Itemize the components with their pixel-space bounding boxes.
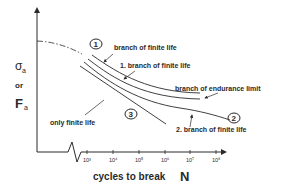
svg-text:2: 2	[232, 114, 237, 123]
tick-label: 10⁵	[135, 157, 143, 163]
svg-text:1: 1	[94, 40, 99, 49]
label-second-branch-finite-life: 2. branch of finite life	[176, 126, 247, 133]
tick-label: 10⁶	[161, 157, 169, 163]
label-branch-finite-life: branch of finite life	[114, 44, 177, 51]
marker-1: 1	[90, 39, 102, 49]
label-branch-endurance-limit: branch of endurance limit	[175, 85, 261, 92]
tick-label: 10⁸	[212, 157, 220, 163]
sigma-subscript: a	[22, 67, 26, 74]
label-only-finite-life: only finite life	[50, 119, 95, 127]
label-first-branch-finite-life: 1. branch of finite life	[120, 62, 191, 69]
or-label: or	[15, 81, 23, 90]
tick-label: 10⁷	[186, 157, 194, 163]
x-axis	[37, 142, 224, 162]
force-subscript: a	[24, 104, 28, 111]
marker-3: 3	[125, 109, 137, 119]
y-axis-labels: σ a or F a	[15, 59, 28, 111]
x-tick-labels: 10³ 10⁴ 10⁵ 10⁶ 10⁷ 10⁸	[83, 157, 220, 163]
tick-label: 10⁴	[109, 157, 118, 163]
force-label: F	[15, 96, 23, 111]
dashed-static-curve	[37, 41, 82, 54]
tick-label: 10³	[83, 157, 91, 163]
x-axis-symbol: N	[180, 169, 189, 184]
sn-diagram: 10³ 10⁴ 10⁵ 10⁶ 10⁷ 10⁸ cycles to break …	[0, 0, 281, 193]
marker-2: 2	[228, 113, 240, 123]
x-axis-title: cycles to break	[93, 171, 166, 182]
svg-text:3: 3	[129, 110, 134, 119]
